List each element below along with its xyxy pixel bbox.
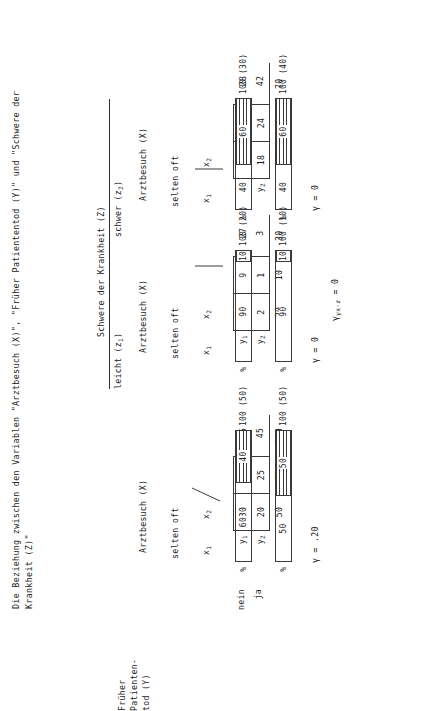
x-cat-selten-z2: selten xyxy=(170,171,180,207)
y-cat-nein: nein xyxy=(233,589,250,641)
bar-segment-ja: 10 xyxy=(236,251,251,262)
x-category-codes-z2: x1 x2 xyxy=(201,63,212,231)
x-variable-header-marginal: Arztbesuch (X) selten oft x1 x2 xyxy=(118,415,232,583)
x-cat-selten: selten xyxy=(170,523,180,559)
x-variable-header-z2: Arztbesuch (X) selten oft x1 x2 xyxy=(118,63,232,231)
stacked-bar-x1-z2: 40 60 xyxy=(235,98,252,210)
bar-row-x2-z1: % 90 10 100 (10) xyxy=(270,206,296,383)
bar-segment-nein: 40 xyxy=(236,165,251,209)
bar-segment-nein: 90 xyxy=(236,262,251,361)
bar-total-x2: 100 (50) xyxy=(279,386,288,430)
gamma-label-marginal: γ = .20 xyxy=(310,386,320,583)
partial-gamma-value: 0 xyxy=(330,279,340,284)
percent-symbol: % xyxy=(239,362,248,383)
x-category-labels-z1: selten oft xyxy=(170,215,180,383)
percent-symbol: % xyxy=(239,210,248,231)
stacked-bar-x2-z2: 40 60 xyxy=(275,98,292,210)
bar-chart-z1: % 90 10 100 (20) % 90 10 100 (10) γ = 0 xyxy=(230,206,320,383)
x-variable-header-z1: Arztbesuch (X) selten oft x1 x2 xyxy=(118,215,232,383)
bar-total-x2-z2: 100 (40) xyxy=(279,54,288,98)
bar-row-x1-z1: % 90 10 100 (20) xyxy=(230,206,256,383)
bar-segment-nein: 40 xyxy=(276,165,291,209)
x-category-codes-marginal: x1 x2 xyxy=(201,415,212,583)
page-title-line-1: Die Beziehung zwischen den Variablen "Ar… xyxy=(11,91,21,609)
bar-row-x2: % 50 50 100 (50) xyxy=(270,386,296,583)
gamma-label-z1: γ = 0 xyxy=(310,206,320,383)
x-cat-oft: oft xyxy=(170,487,180,523)
percent-symbol: % xyxy=(279,562,288,583)
bar-chart-marginal: % 60 40 100 (50) % 50 50 100 (50) γ = .2… xyxy=(230,386,320,583)
x-variable-name-marginal: Arztbesuch (X) xyxy=(138,415,148,583)
gamma-label-z2: γ = 0 xyxy=(310,54,320,231)
percent-symbol: % xyxy=(279,362,288,383)
stacked-bar-x1: 60 40 xyxy=(235,430,252,562)
bar-segment-nein: 50 xyxy=(276,496,291,561)
stacked-bar-x1-z1: 90 10 xyxy=(235,250,252,362)
x-cat-oft-z1: oft xyxy=(170,287,180,323)
stacked-bar-x2-z1: 90 10 xyxy=(275,250,292,362)
x-category-codes-z1: x1 x2 xyxy=(201,215,212,383)
x-category-labels-z2: selten oft xyxy=(170,63,180,231)
bar-row-x1-z2: % 40 60 100 (30) xyxy=(230,54,256,231)
x-cat-oft-z2: oft xyxy=(170,135,180,171)
bar-segment-nein: 90 xyxy=(276,262,291,361)
x-code-x2-z1: x2 xyxy=(201,283,212,319)
x-code-x1: x1 xyxy=(201,519,212,555)
x-code-x2-z2: x2 xyxy=(201,131,212,167)
percent-symbol: % xyxy=(279,210,288,231)
x-variable-name-z1: Arztbesuch (X) xyxy=(138,215,148,383)
x-code-x2: x2 xyxy=(201,483,212,519)
bar-total-x1-z2: 100 (30) xyxy=(239,54,248,98)
bar-segment-ja: 50 xyxy=(276,431,291,496)
page-title-line-2: Krankheit (Z)" xyxy=(24,534,34,609)
bar-row-x1: % 60 40 100 (50) xyxy=(230,386,256,583)
z-group-rule xyxy=(109,99,110,389)
z-group-title: Schwere der Krankheit (Z) xyxy=(96,81,106,389)
bar-segment-ja: 40 xyxy=(236,431,251,483)
partial-gamma-label: γyx·z = 0 xyxy=(330,279,341,321)
y-variable-label: Früher Patienten- tod (Y) xyxy=(116,659,152,711)
bar-segment-ja: 60 xyxy=(276,99,291,165)
bar-row-x2-z2: % 40 60 100 (40) xyxy=(270,54,296,231)
y-category-labels: nein ja xyxy=(233,589,267,641)
x-cat-selten-z1: selten xyxy=(170,323,180,359)
y-cat-ja: ja xyxy=(250,589,267,641)
bar-chart-z2: % 40 60 100 (30) % 40 60 100 (40) γ = 0 xyxy=(230,54,320,231)
percent-symbol: % xyxy=(239,562,248,583)
bar-segment-ja: 60 xyxy=(236,99,251,165)
bar-segment-nein: 60 xyxy=(236,483,251,561)
x-variable-name-z2: Arztbesuch (X) xyxy=(138,63,148,231)
bar-segment-ja: 10 xyxy=(276,251,291,262)
bar-total-x1: 100 (50) xyxy=(239,386,248,430)
x-code-x1-z2: x1 xyxy=(201,167,212,203)
page-title: Die Beziehung zwischen den Variablen "Ar… xyxy=(10,91,36,609)
x-code-x1-z1: x1 xyxy=(201,319,212,355)
stacked-bar-x2: 50 50 xyxy=(275,430,292,562)
x-category-labels-marginal: selten oft xyxy=(170,415,180,583)
